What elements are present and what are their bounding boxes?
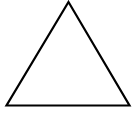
- canvas-background: [0, 0, 135, 114]
- triangle-figure: [0, 0, 135, 114]
- figure-canvas: [0, 0, 135, 114]
